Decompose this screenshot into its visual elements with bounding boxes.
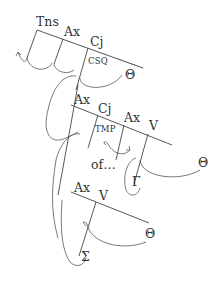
spine-line (71, 192, 149, 223)
tree-1: Tns Ax Cj CSQ Θ (16, 14, 143, 90)
node-ax: Ax (63, 24, 80, 39)
arc-tns-ax (27, 58, 52, 69)
arc-tmp-curl (104, 142, 130, 154)
node-ax-1: Ax (73, 92, 90, 107)
arc-v-theta (83, 222, 146, 246)
node-cj: Cj (98, 101, 111, 116)
node-v: V (148, 118, 159, 133)
branch-ax (116, 125, 124, 160)
arc-v-theta (140, 160, 200, 177)
tree-2: Ax Cj Ax V TMP of… Θ Γ (58, 85, 208, 195)
tree-3: Ax V Θ Σ (71, 180, 155, 264)
node-ax: Ax (73, 180, 90, 195)
branch-ax (54, 39, 63, 64)
node-v: V (98, 188, 109, 203)
subject-sigma: Σ (81, 249, 90, 264)
arc-ax-cj (54, 64, 74, 72)
subject-gamma: Γ (132, 174, 141, 189)
node-tns: Tns (36, 14, 59, 29)
theta-1: Θ (125, 67, 135, 82)
node-cj: Cj (90, 34, 103, 49)
arrow-left-curl (16, 52, 27, 61)
loop-connector-1 (46, 76, 78, 140)
annotation-of: of… (91, 157, 116, 172)
branch-tns (27, 30, 37, 58)
branch-cj (76, 48, 88, 90)
syntax-tree-diagram: Tns Ax Cj CSQ Θ Ax Cj Ax V TMP of… Θ Γ (0, 0, 218, 284)
feature-tmp: TMP (95, 124, 116, 134)
theta-2: Θ (198, 155, 208, 170)
node-ax-2: Ax (123, 110, 140, 125)
theta-3: Θ (145, 226, 155, 241)
feature-csq: CSQ (88, 56, 108, 66)
branch-v (79, 202, 96, 256)
arc-cj-theta (80, 75, 122, 87)
